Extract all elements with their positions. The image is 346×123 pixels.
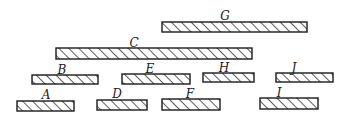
bar-b: B [32, 63, 98, 84]
bar-label: B [57, 63, 67, 77]
bar-f: F [162, 87, 220, 110]
bar-hatch-fill [162, 22, 307, 32]
bar-a: A [17, 88, 74, 111]
hatched-bars-diagram: GCBEHJADFI [0, 0, 346, 123]
bar-hatch-fill [56, 48, 252, 59]
bar-label: F [185, 87, 195, 101]
bar-label: D [111, 87, 122, 101]
bar-label: G [220, 9, 230, 23]
bar-c: C [56, 36, 252, 59]
bar-label: I [276, 86, 282, 100]
bar-hatch-fill [17, 101, 74, 111]
bar-i: I [260, 86, 318, 109]
bar-e: E [122, 62, 190, 84]
bar-label: C [129, 36, 138, 50]
bar-h: H [203, 61, 254, 82]
bar-hatch-fill [97, 100, 147, 110]
bar-g: G [162, 9, 307, 32]
bar-hatch-fill [122, 74, 190, 84]
bar-label: A [41, 88, 51, 102]
bar-j: J [276, 61, 333, 82]
bar-hatch-fill [276, 73, 333, 82]
bar-label: H [218, 61, 230, 75]
bar-d: D [97, 87, 147, 110]
bars-layer: GCBEHJADFI [17, 9, 333, 111]
bar-label: E [145, 62, 155, 76]
bar-hatch-fill [260, 98, 318, 109]
